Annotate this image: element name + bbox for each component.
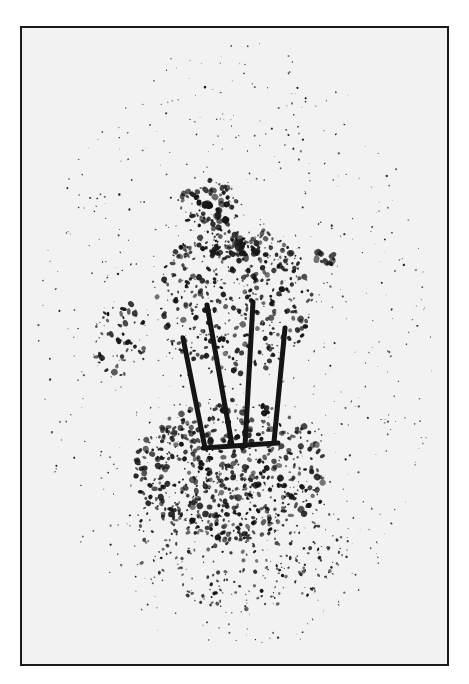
rod: [245, 302, 253, 446]
iron-filings-illustration: [22, 28, 447, 664]
filing-particles: [37, 43, 432, 643]
figure-frame: [20, 26, 449, 666]
